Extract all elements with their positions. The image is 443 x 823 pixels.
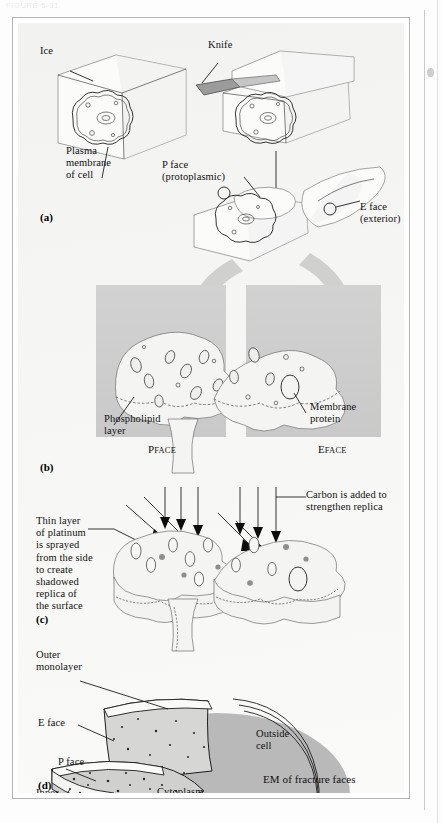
page-edge-rule (437, 0, 438, 823)
label-outside-cell: Outside cell (256, 728, 289, 752)
panel-letter-d: (d) (38, 779, 51, 791)
page-margin-rule (424, 10, 425, 810)
label-outer-monolayer: Outer monolayer (36, 649, 82, 673)
caption-e-face-initial: E (318, 443, 325, 455)
caption-p-face: PFACE (148, 443, 176, 455)
scan-header-artifact: FIGURE 5-31 (6, 2, 126, 11)
label-e-face-d: E face (38, 717, 65, 729)
label-plasma-membrane: Plasma membrane of cell (66, 145, 111, 182)
figure-frame: Ice Knife Plasma membrane of cell P face… (12, 17, 410, 799)
panel-letter-b: (b) (40, 461, 53, 473)
label-p-face: P face (protoplasmic) (162, 159, 225, 183)
caption-p-face-rest: FACE (154, 446, 176, 455)
label-e-face: E face (exterior) (360, 201, 401, 225)
label-membrane-protein: Membrane protein (310, 401, 356, 425)
ice-block-fractured (196, 51, 354, 143)
label-carbon: Carbon is added to strengthen replica (306, 489, 387, 513)
caption-e-face: EFACE (318, 443, 347, 455)
label-p-face-d: P face (58, 756, 84, 768)
label-phospholipid-layer: Phospholipid layer (104, 413, 161, 437)
shadowed-replica-right (214, 537, 345, 624)
label-platinum-spray: Thin layer of platinum is sprayed from t… (36, 515, 93, 613)
caption-e-face-rest: FACE (325, 446, 347, 455)
label-cytoplasm: Cytoplasm (157, 786, 203, 793)
panel-a-illustration (18, 23, 404, 223)
ice-block-intact (58, 55, 186, 159)
label-ice: Ice (40, 45, 53, 57)
leader-knife (202, 63, 218, 83)
panel-letter-a: (a) (40, 211, 53, 223)
figure-canvas: Ice Knife Plasma membrane of cell P face… (18, 23, 404, 793)
caption-em-fracture-faces: EM of fracture faces (263, 773, 356, 785)
scan-smudge-mark (427, 68, 434, 77)
label-knife: Knife (208, 39, 232, 51)
